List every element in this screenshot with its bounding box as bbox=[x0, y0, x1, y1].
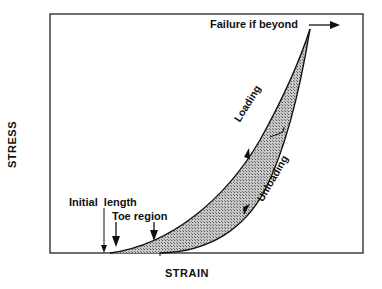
x-axis-label: STRAIN bbox=[165, 268, 209, 279]
failure-arrow-icon bbox=[330, 21, 340, 29]
initial-length-label: Initial length bbox=[69, 197, 137, 208]
loading-arrow-icon bbox=[244, 148, 250, 159]
toe-region-label: Toe region bbox=[112, 211, 167, 222]
y-axis-label: STRESS bbox=[7, 121, 18, 168]
initial-length-arrow-icon bbox=[101, 245, 107, 253]
stress-strain-diagram: STRAIN STRESS Failure if beyond Initial … bbox=[0, 0, 382, 289]
failure-label: Failure if beyond bbox=[210, 19, 298, 30]
diagram-graphic bbox=[0, 0, 382, 289]
toe-arrow-icon bbox=[112, 236, 120, 247]
